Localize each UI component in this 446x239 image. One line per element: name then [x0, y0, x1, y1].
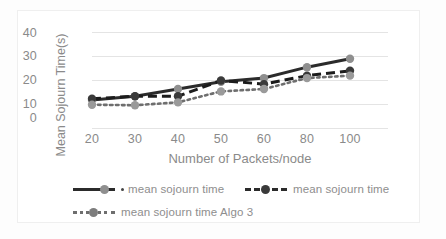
legend-row-1: mean sojourn time	[73, 179, 224, 199]
y-tick-label-40: 40	[0, 26, 37, 40]
data-point	[174, 85, 182, 93]
legend-row-1-second: mean sojourn time	[245, 179, 389, 199]
legend-swatch-dashed-icon	[245, 182, 287, 196]
data-point	[88, 101, 96, 109]
x-tick-label-60: 60	[244, 132, 284, 146]
x-tick-label-80: 80	[287, 132, 327, 146]
y-tick-label-0: 0	[0, 111, 37, 125]
y-tick-label-30: 30	[0, 49, 37, 63]
legend-dot-prefix-icon	[121, 188, 124, 191]
legend-swatch-dotted-icon	[73, 205, 115, 219]
legend-swatch-solid-icon	[73, 182, 115, 196]
x-tick-label-20: 20	[72, 132, 112, 146]
legend-item-dotted[interactable]: mean sojourn time Algo 3	[73, 202, 253, 222]
y-tick-label-20: 20	[0, 73, 37, 87]
legend-item-dashed[interactable]: mean sojourn time	[245, 179, 389, 199]
data-point	[174, 98, 182, 106]
y-tick-label-10: 10	[0, 97, 37, 111]
chart-frame: Mean Sojourn Time(s) 40 30 20 10 0 20 30…	[17, 10, 420, 223]
legend-label-solid: mean sojourn time	[128, 183, 224, 195]
x-tick-label-100: 100	[330, 132, 370, 146]
plot-area	[92, 32, 388, 129]
chart-screenshot: Mean Sojourn Time(s) 40 30 20 10 0 20 30…	[0, 0, 446, 239]
legend-item-solid[interactable]: mean sojourn time	[73, 179, 224, 199]
data-point	[346, 71, 354, 79]
data-point	[217, 76, 225, 84]
y-axis-title-text: Mean Sojourn Time(s)	[54, 29, 68, 161]
y-axis-title: Mean Sojourn Time(s)	[40, 29, 56, 161]
data-point	[303, 63, 311, 71]
data-point	[217, 87, 225, 95]
x-tick-label-40: 40	[158, 132, 198, 146]
data-point	[131, 101, 139, 109]
x-axis-title: Number of Packets/node	[92, 151, 388, 166]
x-tick-label-30: 30	[115, 132, 155, 146]
legend-label-dashed: mean sojourn time	[293, 183, 389, 195]
legend-label-dotted: mean sojourn time Algo 3	[121, 206, 253, 218]
data-point	[346, 54, 354, 62]
data-point	[303, 74, 311, 82]
x-tick-label-50: 50	[201, 132, 241, 146]
series-plot	[92, 32, 388, 129]
data-point	[131, 92, 139, 100]
legend-row-2: mean sojourn time Algo 3	[73, 202, 253, 222]
chart-legend: mean sojourn time mean sojourn time mean…	[73, 179, 433, 227]
data-point	[260, 85, 268, 93]
